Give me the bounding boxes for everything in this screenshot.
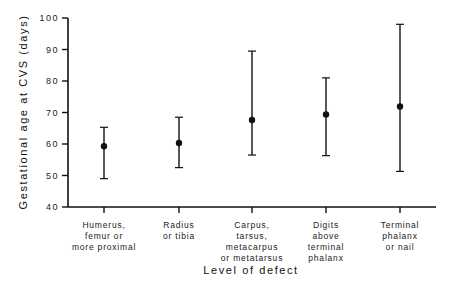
x-category-label: Digitsaboveterminalphalanx [308,220,345,263]
data-points [100,24,404,178]
error-bar-point [396,24,404,171]
y-tick-label: 70 [46,108,59,118]
y-tick-label: 100 [39,13,59,23]
y-tick-label: 80 [46,76,59,86]
y-tick-label: 90 [46,45,59,55]
y-axis-label: Gestational age at CVS (days) [17,15,29,210]
x-category-label: Humerus,femur ormore proximal [72,220,136,252]
x-category-label: Carpus,tarsus,metacarpusor metatarsus [221,220,283,263]
y-tick-label: 50 [46,171,59,181]
y-tick-label: 40 [46,202,59,212]
error-bar-point [248,51,256,155]
error-bar-point [100,127,108,178]
error-bar-point [322,78,330,156]
x-axis: Humerus,femur ormore proximalRadiusor ti… [68,207,436,263]
y-tick-label: 60 [46,139,59,149]
x-category-label: Terminalphalanxor nail [381,220,420,252]
error-bar-chart: 405060708090100 Humerus,femur ormore pro… [0,0,456,285]
y-axis: 405060708090100 [39,13,68,212]
x-axis-label: Level of defect [203,264,299,276]
x-category-label: Radiusor tibia [163,220,195,241]
error-bar-point [175,117,183,167]
